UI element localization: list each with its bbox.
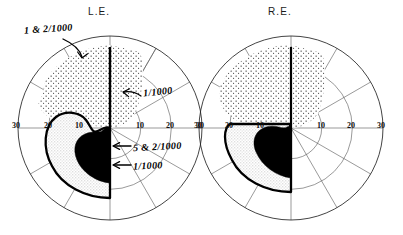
- tick-re-right-10: 10: [317, 121, 325, 130]
- tick-le-right-20: 20: [166, 121, 174, 130]
- tick-re-left-30: 30: [194, 121, 202, 130]
- chart-title-right-eye: R.E.: [268, 6, 292, 17]
- tick-le-right-10: 10: [136, 121, 144, 130]
- tick-le-left-20: 20: [44, 121, 52, 130]
- tick-re-left-20: 20: [225, 121, 233, 130]
- visual-field-figure: L.E. R.E. 1 & 2/1000 1/1000 5 & 2/1000 1…: [0, 0, 403, 235]
- annotation-isopter-1-per-1000-lower-le: 1/1000: [133, 159, 163, 172]
- isopter-stipple-re: [219, 45, 325, 128]
- tick-re-right-20: 20: [347, 121, 355, 130]
- tick-le-left-30: 30: [12, 121, 20, 130]
- tick-re-left-10: 10: [256, 121, 264, 130]
- chart-title-left-eye: L.E.: [88, 6, 110, 17]
- visual-field-svg: [0, 0, 403, 235]
- tick-le-left-10: 10: [75, 121, 83, 130]
- tick-re-right-30: 30: [377, 121, 385, 130]
